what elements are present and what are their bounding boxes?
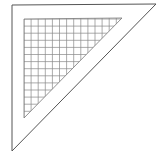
set-square-icon-container (0, 0, 159, 160)
set-square-icon (0, 0, 159, 160)
